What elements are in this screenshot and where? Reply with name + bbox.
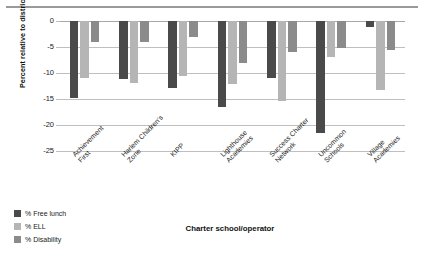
- bar: [130, 21, 139, 83]
- y-axis-tick-label: -25: [14, 147, 54, 155]
- bar: [376, 21, 385, 90]
- bar: [228, 21, 237, 84]
- y-axis-tick-label: 0: [14, 17, 54, 25]
- bar: [91, 21, 100, 42]
- top-divider-rule: [6, 6, 418, 8]
- legend-item[interactable]: % Disability: [14, 233, 124, 245]
- legend-label: % ELL: [25, 223, 46, 230]
- legend-item[interactable]: % Free lunch: [14, 207, 124, 219]
- chart-figure: Percent relative to district 0-5-10-15-2…: [0, 0, 423, 258]
- bar: [239, 21, 248, 63]
- bar-group: [306, 21, 355, 151]
- bar: [140, 21, 149, 42]
- bar-group: [208, 21, 257, 151]
- chart-legend: % Free lunch% ELL% Disability: [14, 207, 124, 246]
- bar: [168, 21, 177, 88]
- bar: [327, 21, 336, 57]
- bar: [387, 21, 396, 50]
- legend-swatch-icon: [14, 223, 21, 230]
- legend-label: % Disability: [25, 236, 61, 243]
- legend-swatch-icon: [14, 236, 21, 243]
- legend-label: % Free lunch: [25, 210, 66, 217]
- bar: [337, 21, 346, 48]
- y-axis-tickmark: [56, 151, 60, 152]
- x-axis-title: Charter school/operator: [130, 224, 330, 233]
- bar: [267, 21, 276, 78]
- bar: [119, 21, 128, 79]
- y-axis-tick-label: -20: [14, 121, 54, 129]
- bar: [189, 21, 198, 37]
- y-axis-tick-label: -10: [14, 69, 54, 77]
- y-axis-tick-label: -15: [14, 95, 54, 103]
- bar: [179, 21, 188, 76]
- y-axis-tick-label: -5: [14, 43, 54, 51]
- x-axis-tick-labels: AchievementFirstHarlem Children'sZoneKIP…: [60, 153, 405, 213]
- legend-swatch-icon: [14, 210, 21, 217]
- bar-group: [356, 21, 405, 151]
- bar: [288, 21, 297, 52]
- bar: [218, 21, 227, 107]
- bar-group: [159, 21, 208, 151]
- bar: [316, 21, 325, 133]
- bar: [366, 21, 375, 27]
- bar: [70, 21, 79, 98]
- bar: [80, 21, 89, 78]
- bar: [278, 21, 287, 101]
- plot-area: 0-5-10-15-20-25: [60, 21, 405, 151]
- legend-item[interactable]: % ELL: [14, 220, 124, 232]
